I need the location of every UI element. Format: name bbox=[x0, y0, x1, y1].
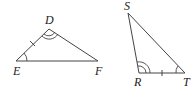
triangle-def bbox=[16, 29, 98, 61]
vertex-label-r: R bbox=[133, 75, 142, 88]
vertex-label-f: F bbox=[94, 64, 103, 78]
vertex-label-s: S bbox=[124, 0, 130, 13]
angle-arc-t bbox=[176, 66, 178, 73]
vertex-label-d: D bbox=[44, 13, 54, 27]
vertex-label-t: T bbox=[183, 75, 191, 88]
angle-arc-e bbox=[24, 53, 27, 61]
vertex-label-e: E bbox=[12, 64, 21, 78]
congruent-triangles-figure: D E F S R T bbox=[0, 0, 196, 88]
triangle-srt bbox=[128, 13, 185, 73]
